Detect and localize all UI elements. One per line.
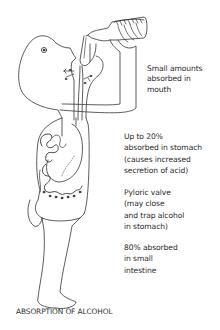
annotation-line: secretion of acid) (124, 165, 202, 176)
annotation-line: 80% absorbed (124, 242, 178, 253)
figure-caption: ABSORPTION OF ALCOHOL (16, 307, 112, 316)
annotation-line: in small (124, 253, 178, 264)
annotation-line: Small amounts (147, 64, 202, 74)
annotation-line: in stomach) (124, 221, 184, 232)
leg-icon (38, 218, 80, 309)
annotation-line: Pyloric valve (124, 187, 184, 198)
annotation-line: absorbed in (147, 74, 202, 84)
annotation-line: (causes increased (124, 154, 202, 165)
annotation-line: (may close (124, 198, 184, 209)
annotation-line: intestine (124, 265, 178, 276)
annotation-stomach: Up to 20% absorbed in stomach (causes in… (124, 131, 202, 177)
annotation-mouth: Small amounts absorbed in mouth (147, 64, 202, 95)
annotation-line: absorbed in stomach (124, 142, 202, 153)
annotation-small-intestine: 80% absorbed in small intestine (124, 242, 178, 276)
stomach-icon (46, 118, 82, 182)
arm-icon (60, 23, 142, 113)
annotation-line: and trap alcohol (124, 210, 184, 221)
annotation-line: Up to 20% (124, 131, 202, 142)
head-icon (19, 36, 76, 136)
annotation-pyloric-valve: Pyloric valve (may close and trap alcoho… (124, 187, 184, 233)
absorption-arrow-icon (64, 69, 92, 84)
esophagus-icon (71, 36, 103, 120)
annotation-line: mouth (147, 85, 202, 95)
small-intestine-icon (39, 134, 82, 199)
